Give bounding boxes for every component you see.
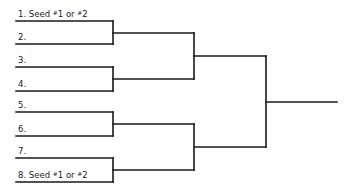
slot-label-6[interactable]: 6. [18,124,26,134]
slot-label-3[interactable]: 3. [18,55,26,65]
slot-label-2[interactable]: 2. [18,32,26,42]
bracket-labels: 1. Seed #1 or #22.3.4.5.6.7.8. Seed #1 o… [18,9,88,181]
tournament-bracket: 1. Seed #1 or #22.3.4.5.6.7.8. Seed #1 o… [0,0,348,193]
bracket-lines [16,21,337,182]
slot-label-4[interactable]: 4. [18,79,26,89]
slot-label-1[interactable]: 1. Seed #1 or #2 [18,9,88,20]
slot-label-5[interactable]: 5. [18,100,26,110]
slot-label-7[interactable]: 7. [18,146,26,156]
slot-label-8[interactable]: 8. Seed #1 or #2 [18,170,88,181]
